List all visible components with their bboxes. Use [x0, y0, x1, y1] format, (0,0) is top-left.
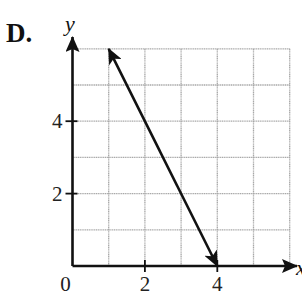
y-tick-label: 4 — [52, 109, 63, 133]
x-tick-label: 2 — [140, 272, 151, 296]
x-tick-label: 0 — [60, 272, 71, 296]
axes — [73, 37, 298, 266]
x-axis-label: x — [295, 255, 302, 280]
tick-marks — [66, 121, 218, 272]
y-axis-label: y — [63, 11, 75, 36]
grid-lines — [73, 49, 290, 266]
x-tick-label: 4 — [212, 272, 223, 296]
axis-labels: 02424xy — [52, 11, 302, 296]
y-tick-label: 2 — [52, 182, 63, 206]
coordinate-plane: 02424xy — [0, 0, 302, 296]
